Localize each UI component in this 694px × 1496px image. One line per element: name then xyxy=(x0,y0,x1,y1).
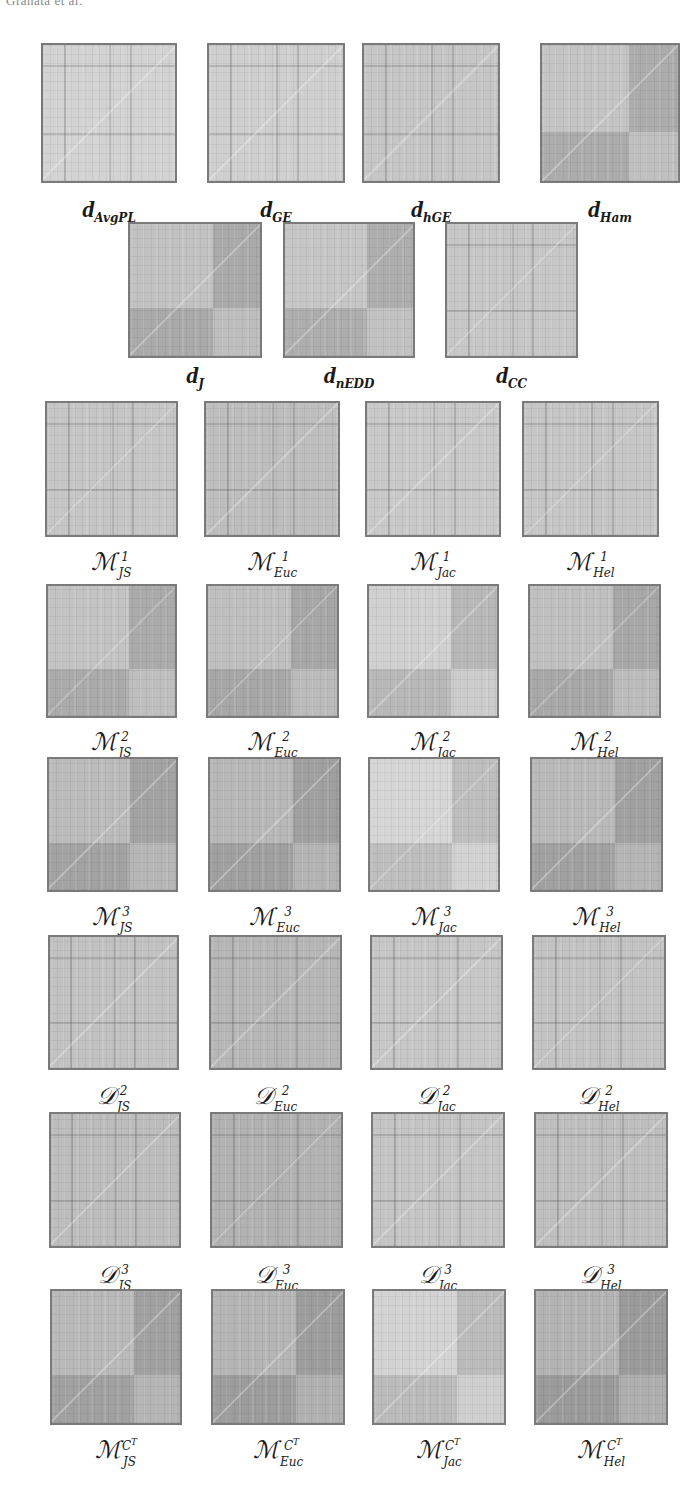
matrix-label: ℳ1Hel xyxy=(502,548,679,577)
distance-matrix-heatmap xyxy=(41,43,177,183)
matrix-label: ℳ3Jac xyxy=(348,903,520,932)
distance-matrix-heatmap xyxy=(372,1289,506,1425)
distance-matrix-heatmap xyxy=(204,401,340,537)
matrix-label: ℳ3Hel xyxy=(510,903,683,932)
matrix-label: dnEDD xyxy=(263,362,435,391)
distance-matrix-heatmap xyxy=(528,584,661,718)
distance-matrix-heatmap xyxy=(48,935,179,1070)
matrix-label: ℳ2Hel xyxy=(508,728,681,757)
distance-matrix-heatmap xyxy=(362,43,500,183)
matrix-label: 𝒟2JS xyxy=(28,1083,199,1111)
distance-matrix-heatmap xyxy=(368,757,500,892)
distance-matrix-heatmap xyxy=(208,757,341,892)
distance-matrix-heatmap xyxy=(530,757,663,892)
distance-matrix-heatmap xyxy=(522,401,659,537)
matrix-label: 𝒟3Hel xyxy=(514,1262,688,1290)
matrix-label: ℳCTJS xyxy=(30,1436,202,1466)
matrix-label: ℳ2Euc xyxy=(186,728,359,757)
distance-matrix-heatmap xyxy=(365,401,501,537)
matrix-label: dAvgPL xyxy=(21,196,197,225)
distance-matrix-heatmap xyxy=(371,1112,505,1248)
distance-matrix-heatmap xyxy=(128,222,262,358)
matrix-label: ℳ3Euc xyxy=(188,903,361,932)
distance-matrix-heatmap xyxy=(207,43,345,183)
matrix-label: ℳ1JS xyxy=(25,548,198,577)
matrix-label: ℳ2JS xyxy=(26,728,197,757)
distance-matrix-heatmap xyxy=(532,935,666,1070)
matrix-label: dhGE xyxy=(342,196,520,225)
distance-matrix-heatmap xyxy=(206,584,339,718)
matrix-label: ℳ1Jac xyxy=(345,548,521,577)
matrix-label: ℳCTJac xyxy=(352,1436,526,1466)
distance-matrix-heatmap xyxy=(50,1289,182,1425)
matrix-label: ℳ3JS xyxy=(27,903,198,932)
matrix-label: dJ xyxy=(108,362,282,391)
distance-matrix-heatmap xyxy=(534,1289,668,1425)
distance-matrix-heatmap xyxy=(534,1112,668,1248)
matrix-label: 𝒟3Jac xyxy=(351,1262,525,1290)
matrix-label: 𝒟2Euc xyxy=(189,1083,362,1111)
matrix-label: ℳ1Euc xyxy=(184,548,360,577)
matrix-label: ℳ2Jac xyxy=(347,728,519,757)
matrix-label: dHam xyxy=(520,196,694,225)
distance-matrix-heatmap xyxy=(45,401,178,537)
distance-matrix-heatmap xyxy=(209,935,342,1070)
matrix-label: ℳCTEuc xyxy=(191,1436,365,1466)
distance-matrix-heatmap xyxy=(211,1289,345,1425)
matrix-label: dCC xyxy=(425,362,598,391)
distance-matrix-heatmap xyxy=(445,222,578,358)
distance-matrix-heatmap xyxy=(367,584,499,718)
distance-matrix-heatmap xyxy=(47,757,178,892)
distance-matrix-heatmap xyxy=(370,935,503,1070)
running-head: Granata et al. xyxy=(6,0,83,9)
distance-matrix-heatmap xyxy=(46,584,177,718)
distance-matrix-heatmap xyxy=(49,1112,181,1248)
distance-matrix-heatmap xyxy=(210,1112,343,1248)
matrix-label: ℳCTHel xyxy=(514,1436,688,1466)
matrix-label: 𝒟2Hel xyxy=(512,1083,686,1111)
distance-matrix-heatmap xyxy=(540,43,680,183)
distance-matrix-heatmap xyxy=(283,222,415,358)
matrix-label: 𝒟3JS xyxy=(29,1262,201,1290)
matrix-label: 𝒟3Euc xyxy=(190,1262,363,1290)
matrix-label: 𝒟2Jac xyxy=(350,1083,523,1111)
matrix-label: dGE xyxy=(187,196,365,225)
